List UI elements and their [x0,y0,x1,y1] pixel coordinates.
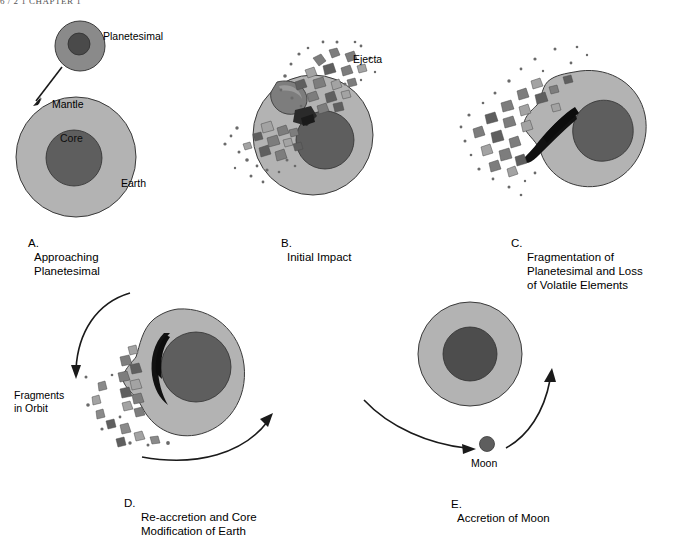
earth-deformed-body [524,70,646,186]
planetesimal-body [55,21,105,71]
panel-a-graphic [0,20,200,225]
caption-e: E. Accretion of Moon [451,483,550,525]
caption-a-letter: A. [28,237,39,249]
panel-d-graphic [0,285,320,480]
label-mantle: Mantle [52,98,84,111]
caption-d-letter: D. [124,496,136,510]
label-ejecta: Ejecta [353,53,382,66]
running-head: 6 / 2 1 CHAPTER 1 [0,0,250,8]
panel-e-graphic [370,292,675,482]
caption-d-text: Re-accretion and Core Modification of Ea… [141,510,257,538]
panel-c-graphic [425,45,675,225]
caption-b: B. Initial Impact [281,222,352,264]
caption-b-letter: B. [281,237,292,249]
caption-c-letter: C. [511,236,523,250]
panel-d: Fragments in Orbit [0,285,320,480]
caption-e-letter: E. [451,498,462,510]
caption-b-text: Initial Impact [287,250,352,264]
caption-d: D. Re-accretion and Core Modification of… [124,482,257,539]
earth-body [418,302,522,406]
panel-b: Ejecta [195,40,415,220]
caption-a-text: Approaching Planetesimal [34,250,100,278]
caption-a: A. Approaching Planetesimal [28,222,100,278]
label-planetesimal: Planetesimal [103,30,163,43]
label-fragments-in-orbit: Fragments in Orbit [14,389,64,415]
caption-c-text: Fragmentation of Planetesimal and Loss o… [527,250,643,292]
label-moon: Moon [471,457,497,470]
earth-body [16,97,136,217]
label-core: Core [60,132,83,145]
moon-inflow-arrow [364,400,476,454]
panel-b-graphic [195,40,415,220]
label-earth: Earth [121,177,146,190]
moon-body [480,437,495,452]
caption-e-text: Accretion of Moon [457,511,550,525]
panel-c [425,45,675,225]
panel-e: Moon [370,292,675,482]
panel-a: Planetesimal Mantle Core Earth [0,20,200,225]
orbit-inflow-arrow [71,293,130,379]
